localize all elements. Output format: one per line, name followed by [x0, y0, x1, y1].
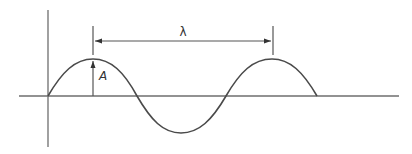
wavelength-label: λ [179, 25, 186, 39]
sine-wave-diagram: λ A [0, 0, 412, 154]
amplitude-label: A [98, 69, 107, 83]
